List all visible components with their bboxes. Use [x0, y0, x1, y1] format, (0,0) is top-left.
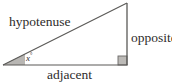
right-angle-square-marker	[118, 56, 127, 65]
trig-triangle-diagram: hypotenuse opposite adjacent x°	[0, 0, 172, 83]
degree-symbol-icon: °	[30, 52, 32, 58]
opposite-label: opposite	[131, 31, 172, 45]
adjacent-label: adjacent	[47, 68, 92, 82]
angle-x-label: x°	[26, 52, 32, 63]
hypotenuse-label: hypotenuse	[9, 15, 71, 29]
hypotenuse-side-line	[3, 3, 127, 65]
